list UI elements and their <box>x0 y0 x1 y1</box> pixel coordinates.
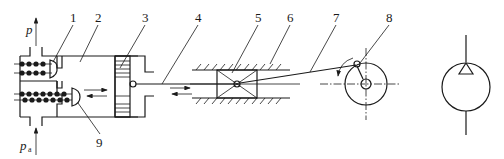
label-5: 5 <box>255 10 262 25</box>
pump-diagram: p p a <box>0 0 504 159</box>
outlet-port: p <box>20 18 60 56</box>
part-labels: 1 2 3 4 5 6 7 8 9 <box>53 10 393 150</box>
suction-valve <box>14 88 80 106</box>
label-3: 3 <box>142 10 149 25</box>
inlet-pressure-subscript: a <box>28 145 32 154</box>
pump-symbol <box>442 35 490 135</box>
chamber-motion-arrows <box>84 90 107 96</box>
crank <box>320 48 400 120</box>
label-4: 4 <box>195 10 202 25</box>
label-9: 9 <box>96 135 103 150</box>
crosshead <box>190 70 300 98</box>
inlet-pressure-label: p <box>19 138 27 153</box>
label-6: 6 <box>287 10 294 25</box>
outlet-pressure-label: p <box>25 22 33 37</box>
label-2: 2 <box>95 10 102 25</box>
inlet-port: p a <box>19 117 60 155</box>
plunger <box>115 56 136 117</box>
label-8: 8 <box>386 10 393 25</box>
label-1: 1 <box>70 10 77 25</box>
label-7: 7 <box>333 10 340 25</box>
